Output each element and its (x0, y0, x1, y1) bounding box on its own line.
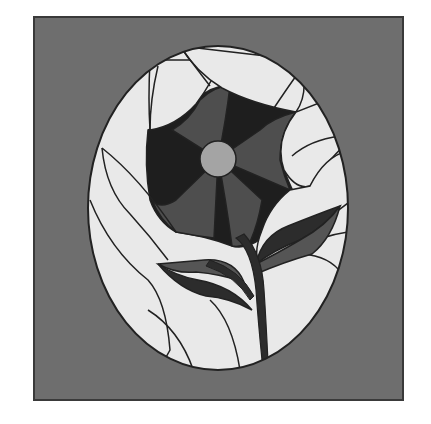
flower-center (200, 141, 236, 177)
stained-glass-artwork: Stained glass flower in oval (0, 0, 431, 424)
